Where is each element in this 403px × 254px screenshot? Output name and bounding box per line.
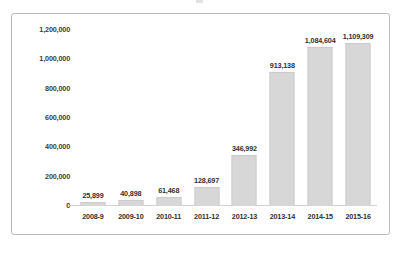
bar[interactable]: [270, 72, 295, 206]
chart-figure-frame: 0200,000400,000600,000800,0001,000,0001,…: [11, 13, 390, 235]
bar[interactable]: [308, 47, 333, 206]
y-tick-label: 800,000: [45, 85, 70, 93]
bar-slot: 40,898: [112, 30, 150, 206]
bar[interactable]: [346, 43, 371, 206]
bar-value-label: 346,992: [232, 145, 257, 153]
bar[interactable]: [232, 155, 257, 206]
y-tick-label: 600,000: [45, 114, 70, 122]
bar-slot: 346,992: [226, 30, 264, 206]
bar-chart: 0200,000400,000600,000800,0001,000,0001,…: [12, 14, 391, 236]
bar-slot: 1,084,604: [301, 30, 339, 206]
x-tick-label: 2013-14: [263, 212, 301, 221]
plot-area: 25,89940,89861,468128,697346,992913,1381…: [74, 30, 377, 206]
x-tick-label: 2010-11: [150, 212, 188, 221]
x-tick-label: 2014-15: [301, 212, 339, 221]
bar-value-label: 913,138: [270, 62, 295, 70]
bar-value-label: 1,084,604: [305, 37, 336, 45]
bar-value-label: 1,109,309: [343, 33, 374, 41]
x-tick-label: 2009-10: [112, 212, 150, 221]
x-tick-label: 2011-12: [188, 212, 226, 221]
bar-slot: 25,899: [74, 30, 112, 206]
bars-layer: 25,89940,89861,468128,697346,992913,1381…: [74, 30, 377, 206]
page-edge-artifact: [196, 0, 203, 3]
bar-slot: 1,109,309: [339, 30, 377, 206]
bar-slot: 61,468: [150, 30, 188, 206]
bar-slot: 128,697: [188, 30, 226, 206]
bar-slot: 913,138: [263, 30, 301, 206]
x-tick-label: 2008-9: [74, 212, 112, 221]
bar-value-label: 128,697: [194, 177, 219, 185]
bar[interactable]: [80, 202, 105, 206]
y-tick-label: 400,000: [45, 143, 70, 151]
bar-value-label: 40,898: [120, 190, 141, 198]
y-axis: 0200,000400,000600,000800,0001,000,0001,…: [12, 14, 74, 236]
bar-value-label: 25,899: [82, 192, 103, 200]
y-tick-label: 200,000: [45, 173, 70, 181]
y-tick-label: 0: [66, 202, 70, 210]
x-tick-label: 2012-13: [226, 212, 264, 221]
x-tick-label: 2015-16: [339, 212, 377, 221]
chart-screenshot: 0200,000400,000600,000800,0001,000,0001,…: [0, 0, 403, 254]
y-tick-label: 1,200,000: [39, 26, 70, 34]
bar[interactable]: [194, 187, 219, 206]
y-tick-label: 1,000,000: [39, 55, 70, 63]
bar[interactable]: [118, 200, 143, 206]
bar[interactable]: [156, 197, 181, 206]
bar-value-label: 61,468: [158, 187, 179, 195]
x-axis: 2008-92009-102010-112011-122012-132013-1…: [74, 210, 377, 226]
